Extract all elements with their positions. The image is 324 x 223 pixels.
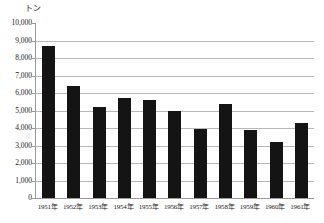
x-axis-tick-label: 1961年 <box>288 201 313 215</box>
y-axis-tick-mark <box>32 146 35 147</box>
y-axis-tick-label: 0 <box>0 194 32 202</box>
y-axis-tick-mark <box>32 111 35 112</box>
bar-slot <box>289 23 314 198</box>
x-axis-tick-label: 1952年 <box>60 201 85 215</box>
y-axis-tick-mark <box>32 128 35 129</box>
bar-slot <box>87 23 112 198</box>
y-axis-tick-label: 6,000 <box>0 89 32 97</box>
bar <box>270 142 283 198</box>
bar <box>143 100 156 198</box>
bar-slot <box>263 23 288 198</box>
y-axis-tick-label: 1,000 <box>0 177 32 185</box>
bar-slot <box>188 23 213 198</box>
bar-slot <box>162 23 187 198</box>
y-axis-tick-label: 8,000 <box>0 54 32 62</box>
y-axis-tick-label: 10,000 <box>0 19 32 27</box>
y-axis-tick-label: 2,000 <box>0 159 32 167</box>
bar <box>42 46 55 198</box>
bar-series <box>36 23 314 198</box>
x-axis-tick-label: 1960年 <box>262 201 287 215</box>
bar <box>93 107 106 198</box>
bar-slot <box>61 23 86 198</box>
y-axis-tick-label: 7,000 <box>0 72 32 80</box>
y-axis-tick-mark <box>32 163 35 164</box>
bar-slot <box>112 23 137 198</box>
bar <box>118 98 131 198</box>
x-axis-tick-label: 1955年 <box>136 201 161 215</box>
y-axis-tick-mark <box>32 23 35 24</box>
y-axis-tick-mark <box>32 41 35 42</box>
y-axis-tick-label: 3,000 <box>0 142 32 150</box>
y-axis-unit-label: トン <box>25 4 41 14</box>
bar-slot <box>36 23 61 198</box>
y-axis-tick-label: 5,000 <box>0 107 32 115</box>
x-axis-tick-label: 1956年 <box>161 201 186 215</box>
x-axis-tick-label: 1953年 <box>86 201 111 215</box>
bar <box>244 130 257 198</box>
x-axis: 1951年1952年1953年1954年1955年1956年1957年1958年… <box>35 201 313 215</box>
plot-area <box>35 23 314 199</box>
y-axis-tick-label: 9,000 <box>0 37 32 45</box>
bar <box>295 123 308 198</box>
x-axis-tick-label: 1958年 <box>212 201 237 215</box>
x-axis-tick-label: 1957年 <box>187 201 212 215</box>
y-axis-tick-mark <box>32 198 35 199</box>
bar-chart: トン 10,0009,0008,0007,0006,0005,0004,0003… <box>0 0 324 223</box>
bar-slot <box>238 23 263 198</box>
bar <box>67 86 80 198</box>
y-axis-tick-mark <box>32 181 35 182</box>
bar-slot <box>213 23 238 198</box>
x-axis-tick-label: 1954年 <box>111 201 136 215</box>
bar <box>219 104 232 199</box>
x-axis-tick-label: 1959年 <box>237 201 262 215</box>
bar <box>194 129 207 198</box>
bar-slot <box>137 23 162 198</box>
y-axis-tick-mark <box>32 93 35 94</box>
y-axis-tick-mark <box>32 76 35 77</box>
x-axis-tick-label: 1951年 <box>35 201 60 215</box>
y-axis-tick-mark <box>32 58 35 59</box>
bar <box>168 111 181 199</box>
y-axis-tick-label: 4,000 <box>0 124 32 132</box>
